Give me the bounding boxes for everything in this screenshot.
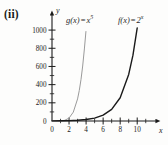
- x-tick-label: 8: [118, 126, 122, 134]
- y-tick-label: 200: [36, 99, 47, 107]
- x-tick-label: 10: [134, 126, 142, 134]
- y-tick-label: 800: [36, 45, 47, 53]
- x-tick-label: 0: [50, 126, 54, 134]
- y-tick-label: 1000: [32, 27, 47, 35]
- y-tick-labels: 02004006008001000: [32, 27, 47, 126]
- y-axis: 02004006008001000: [32, 15, 55, 126]
- y-tick-label: 600: [36, 63, 47, 71]
- curve-path: [52, 28, 137, 121]
- curve-label-f: f(x)=2x: [118, 14, 144, 25]
- curve-label-f-equals: =: [130, 15, 137, 25]
- x-tick-labels: 0246810: [50, 126, 141, 134]
- curve-label-g-name: g(x): [66, 15, 80, 25]
- y-tick-label: 0: [43, 118, 47, 126]
- curve-path: [52, 32, 86, 121]
- curve-label-g: g(x)=x5: [66, 14, 93, 25]
- curve-label-f-name: f(x): [118, 15, 130, 25]
- x-axis-name: x: [159, 126, 163, 135]
- y-axis-name: y: [56, 6, 60, 15]
- x-tick-label: 2: [67, 126, 71, 134]
- curve-label-g-exponent: 5: [90, 14, 93, 20]
- x-tick-label: 6: [101, 126, 105, 134]
- curve-label-f-exponent: x: [141, 14, 144, 20]
- x-tick-label: 4: [84, 126, 88, 134]
- y-tick-label: 400: [36, 81, 47, 89]
- data-curves: [52, 28, 137, 121]
- figure-container: (ii) 02004006008001000 0246810 g(x)=x5 f…: [0, 0, 168, 145]
